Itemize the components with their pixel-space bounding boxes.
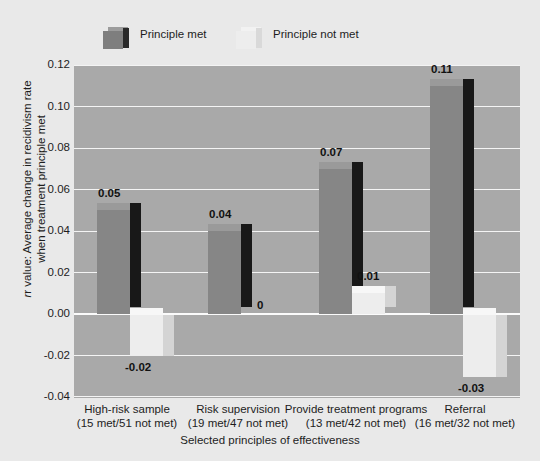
bar-label-risk-supervision-met: 0.04 [209,208,231,220]
x-label-name-1: Risk supervision [196,403,280,415]
gridline-0.12 [74,65,520,66]
y-tick-8: -0.04 [24,390,70,402]
bar-label-high-risk-sample-notmet: -0.02 [125,361,151,373]
plot-area: 0.05 -0.02 0.04 0 0.07 0.01 0.11 - [74,65,520,398]
bar-referral-met [430,86,463,314]
x-label-name-0: High-risk sample [84,403,170,415]
bar-label-referral-met: 0.11 [431,63,453,75]
x-label-group-referral: Referral (16 met/32 not met) [395,402,535,430]
y-tick-3: 0.06 [24,183,70,195]
legend-swatch-met-icon [103,27,133,49]
bar-label-referral-notmet: -0.03 [458,382,484,394]
x-label-counts-3: (16 met/32 not met) [415,417,515,429]
legend-label-met: Principle met [140,28,206,40]
legend-swatch-notmet-icon [236,27,266,49]
bar-referral-notmet [463,315,496,377]
bar-high-risk-sample-met [97,210,130,314]
y-axis-ticks: 0.12 0.10 0.08 0.06 0.04 0.02 0.00 -0.02… [18,65,70,398]
bar-label-provide-treatment-programs-met: 0.07 [320,146,342,158]
chart-legend: Principle met Principle not met [103,24,403,54]
y-tick-0: 0.12 [24,58,70,70]
y-tick-1: 0.10 [24,100,70,112]
x-axis-title: Selected principles of effectiveness [0,434,540,446]
bar-risk-supervision-met [208,231,241,314]
y-tick-5: 0.02 [24,266,70,278]
bar-label-high-risk-sample-met: 0.05 [98,187,120,199]
bar-provide-treatment-programs-met [319,169,352,314]
x-label-counts-0: (15 met/51 not met) [77,417,177,429]
bar-high-risk-sample-notmet [130,315,163,356]
x-label-counts-2: (13 met/42 not met) [306,417,406,429]
bar-label-provide-treatment-programs-notmet: 0.01 [357,270,379,282]
chart-figure: Principle met Principle not met rr value… [0,0,540,461]
gridline--0.04 [74,396,520,397]
y-tick-2: 0.08 [24,141,70,153]
y-tick-6: 0.00 [24,307,70,319]
x-label-name-3: Referral [445,403,486,415]
legend-label-notmet: Principle not met [273,28,359,40]
y-tick-4: 0.04 [24,224,70,236]
bar-label-risk-supervision-notmet: 0 [257,299,263,311]
bar-provide-treatment-programs-notmet [352,293,385,314]
y-tick-7: -0.02 [24,349,70,361]
